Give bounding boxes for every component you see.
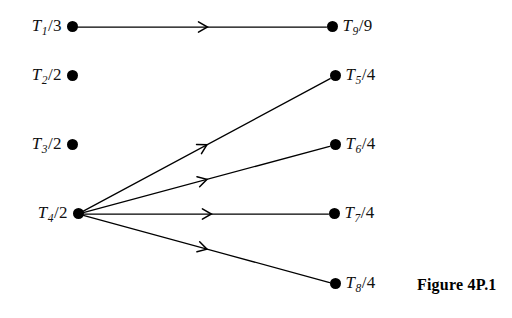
- edge-layer: [0, 0, 512, 318]
- graph-node-t2: T2/2: [32, 66, 78, 86]
- node-dot-t9: [327, 21, 338, 32]
- node-dot-t3: [67, 139, 78, 150]
- node-label-t7: T7/4: [345, 204, 375, 224]
- node-label-t5: T5/4: [346, 66, 376, 86]
- graph-node-t6: T6/4: [330, 135, 376, 155]
- node-dot-t2: [67, 70, 78, 81]
- node-dot-t7: [329, 208, 340, 219]
- node-label-t6: T6/4: [346, 135, 376, 155]
- graph-node-t9: T9/9: [327, 17, 373, 37]
- graph-node-t7: T7/4: [329, 204, 375, 224]
- node-label-t4: T4/2: [38, 204, 68, 224]
- node-label-t1: T1/3: [32, 17, 62, 37]
- node-label-t8: T8/4: [346, 274, 376, 294]
- node-label-t2: T2/2: [32, 66, 62, 86]
- node-label-t9: T9/9: [343, 17, 373, 37]
- graph-node-t3: T3/2: [32, 135, 78, 155]
- node-dot-t4: [73, 208, 84, 219]
- node-dot-t1: [67, 21, 78, 32]
- graph-node-t1: T1/3: [32, 17, 78, 37]
- figure-caption: Figure 4P.1: [417, 277, 497, 293]
- graph-node-t5: T5/4: [330, 66, 376, 86]
- node-dot-t5: [330, 70, 341, 81]
- node-label-t3: T3/2: [32, 135, 62, 155]
- figure-4p1: T1/3T2/2T3/2T4/2T9/9T5/4T6/4T7/4T8/4 Fig…: [0, 0, 512, 318]
- graph-node-t8: T8/4: [330, 274, 376, 294]
- node-dot-t6: [330, 139, 341, 150]
- graph-node-t4: T4/2: [38, 204, 84, 224]
- node-dot-t8: [330, 278, 341, 289]
